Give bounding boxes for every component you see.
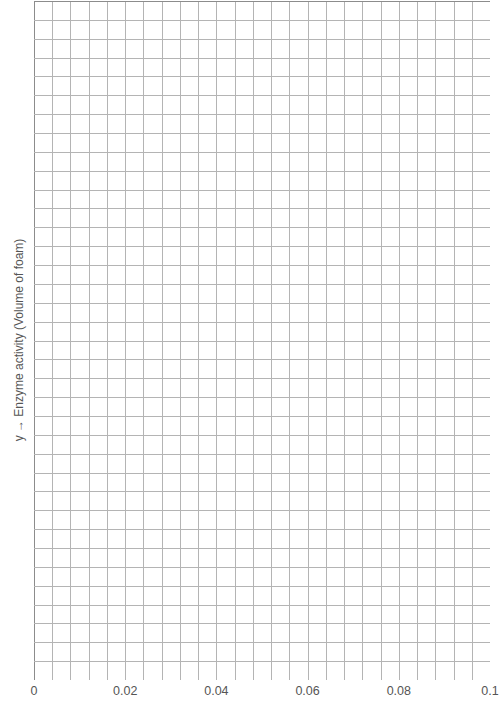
x-tick-label: 0.08 — [387, 684, 411, 698]
x-tick-label: 0 — [31, 684, 38, 698]
x-tick-label: 0.02 — [113, 684, 137, 698]
grid-lines — [34, 1, 490, 680]
x-tick-label: 0.06 — [295, 684, 319, 698]
graph-paper-plot-area — [34, 1, 490, 680]
y-axis-label: y → Enzyme activity (Volume of foam) — [12, 239, 26, 442]
x-tick-label: 0.04 — [204, 684, 228, 698]
x-tick-label: 0.1 — [481, 684, 498, 698]
